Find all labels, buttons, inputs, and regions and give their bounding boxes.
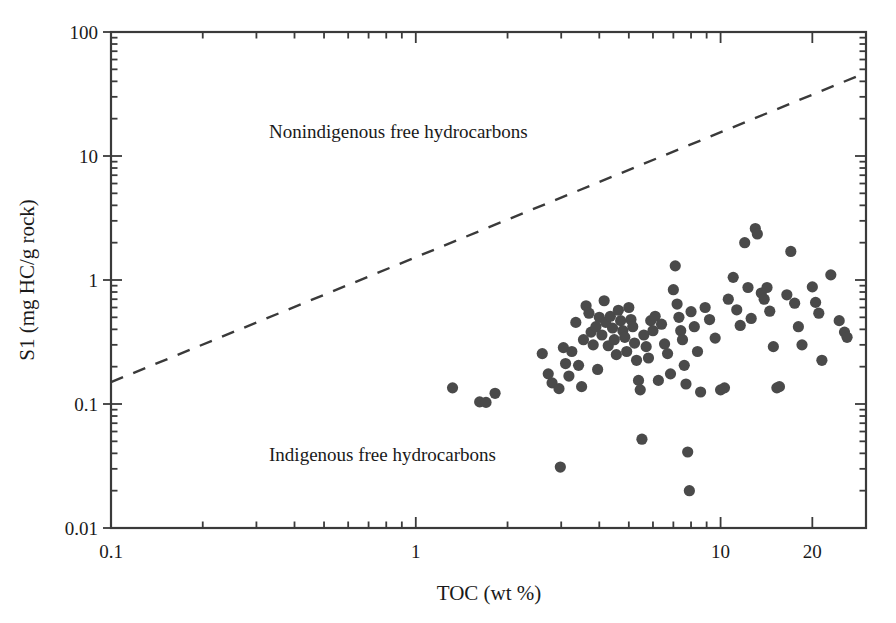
data-point [700, 302, 711, 313]
data-point [613, 305, 624, 316]
data-point [746, 313, 757, 324]
data-point [719, 382, 730, 393]
data-point [653, 375, 664, 386]
data-point [841, 332, 852, 343]
data-point [695, 386, 706, 397]
data-point [643, 352, 654, 363]
data-point [810, 297, 821, 308]
data-point [689, 321, 700, 332]
data-point [576, 381, 587, 392]
y-tick-label: 0.01 [65, 518, 98, 539]
data-point [704, 314, 715, 325]
data-point [555, 461, 566, 472]
data-point [781, 289, 792, 300]
y-tick-label: 0.1 [74, 394, 98, 415]
data-point [768, 341, 779, 352]
data-point [759, 294, 770, 305]
data-point [480, 397, 491, 408]
data-point [659, 338, 670, 349]
data-point [563, 370, 574, 381]
data-point [665, 368, 676, 379]
data-point [573, 360, 584, 371]
data-point [611, 349, 622, 360]
data-point [627, 321, 638, 332]
data-point [566, 346, 577, 357]
data-point [813, 308, 824, 319]
x-tick-label: 10 [711, 541, 730, 562]
data-point [723, 294, 734, 305]
data-point [796, 339, 807, 350]
data-point [710, 332, 721, 343]
data-point [553, 383, 564, 394]
data-point [662, 348, 673, 359]
data-point [825, 269, 836, 280]
data-point [635, 384, 646, 395]
x-tick-label: 0.1 [99, 541, 123, 562]
data-point [774, 381, 785, 392]
y-axis-title: S1 (mg HC/g rock) [15, 199, 39, 361]
data-point [764, 306, 775, 317]
data-point [677, 334, 688, 345]
data-point [793, 321, 804, 332]
data-point [583, 308, 594, 319]
data-point [489, 388, 500, 399]
y-tick-label: 100 [70, 22, 99, 43]
data-point [588, 339, 599, 350]
x-axis-title: TOC (wt %) [437, 581, 542, 605]
y-tick-label: 1 [89, 270, 99, 291]
data-point [789, 298, 800, 309]
data-point [692, 346, 703, 357]
data-point [560, 358, 571, 369]
data-point [623, 302, 634, 313]
data-point [673, 312, 684, 323]
data-point [621, 346, 632, 357]
data-point [680, 378, 691, 389]
data-point [619, 332, 630, 343]
data-point [570, 317, 581, 328]
data-point [735, 320, 746, 331]
data-point [816, 355, 827, 366]
data-point [728, 272, 739, 283]
data-point [641, 341, 652, 352]
data-point [668, 284, 679, 295]
data-point [684, 485, 695, 496]
data-point [807, 281, 818, 292]
data-point [447, 382, 458, 393]
data-point [656, 319, 667, 330]
x-tick-label: 1 [411, 541, 421, 562]
data-point [679, 360, 690, 371]
annotation-text: Indigenous free hydrocarbons [269, 444, 496, 465]
data-point [537, 348, 548, 359]
data-point [592, 364, 603, 375]
data-point [609, 334, 620, 345]
data-point [739, 237, 750, 248]
data-point [682, 446, 693, 457]
data-point [631, 355, 642, 366]
data-point [834, 315, 845, 326]
figure-canvas: 0.111020 0.010.1110100 TOC (wt %) S1 (mg… [0, 0, 896, 623]
plot-background [0, 0, 896, 623]
data-point [761, 282, 772, 293]
data-point [615, 315, 626, 326]
data-point [599, 295, 610, 306]
y-tick-label: 10 [79, 146, 98, 167]
data-point [752, 228, 763, 239]
annotation-text: Nonindigenous free hydrocarbons [269, 121, 528, 142]
data-point [785, 246, 796, 257]
scatter-plot: 0.111020 0.010.1110100 TOC (wt %) S1 (mg… [0, 0, 896, 623]
data-point [633, 375, 644, 386]
data-point [596, 329, 607, 340]
data-point [636, 434, 647, 445]
data-point [731, 304, 742, 315]
data-point [742, 282, 753, 293]
data-point [629, 337, 640, 348]
data-point [671, 298, 682, 309]
data-point [670, 260, 681, 271]
data-point [685, 306, 696, 317]
x-tick-label: 20 [803, 541, 822, 562]
